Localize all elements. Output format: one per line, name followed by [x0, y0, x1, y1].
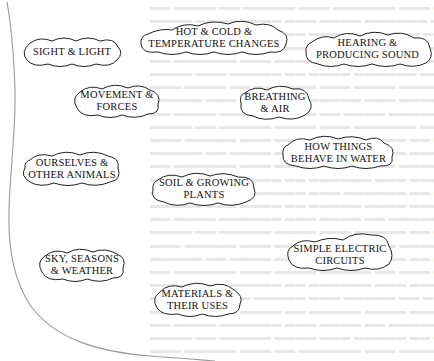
topic-label: SIMPLE ELECTRIC CIRCUITS: [293, 243, 386, 267]
topic-cloud-hot-cold: HOT & COLD & TEMPERATURE CHANGES: [138, 20, 290, 56]
topic-label: BREATHING & AIR: [244, 91, 305, 115]
topic-label: SKY, SEASONS & WEATHER: [45, 253, 119, 277]
topic-cloud-soil: SOIL & GROWING PLANTS: [150, 172, 258, 206]
topic-cloud-sky: SKY, SEASONS & WEATHER: [37, 248, 127, 282]
topic-cloud-ourselves: OURSELVES & OTHER ANIMALS: [22, 150, 122, 187]
topic-label: HOT & COLD & TEMPERATURE CHANGES: [148, 26, 279, 50]
topic-label: OURSELVES & OTHER ANIMALS: [28, 157, 115, 181]
topic-cloud-hearing: HEARING & PRODUCING SOUND: [302, 30, 433, 68]
topic-label: SOIL & GROWING PLANTS: [159, 177, 249, 201]
scanned-page: ▬▬ ▬▬▬▬ ▬▬ ▬▬▬▬▬ ▬▬▬ ▬▬▬▬▬▬ ▬▬▬ ▬▬▬▬ ▬▬ …: [0, 0, 434, 361]
topic-cloud-materials: MATERIALS & THEIR USES: [152, 282, 243, 318]
topic-label: MOVEMENT & FORCES: [80, 89, 153, 113]
topic-cloud-breathing: BREATHING & AIR: [237, 85, 313, 121]
topic-label: HEARING & PRODUCING SOUND: [316, 37, 419, 61]
topic-cloud-electric: SIMPLE ELECTRIC CIRCUITS: [285, 232, 395, 272]
topic-label: SIGHT & LIGHT: [33, 46, 111, 58]
topic-label: MATERIALS & THEIR USES: [162, 288, 234, 312]
topic-label: HOW THINGS BEHAVE IN WATER: [291, 141, 386, 165]
topic-cloud-water: HOW THINGS BEHAVE IN WATER: [280, 135, 397, 170]
topic-cloud-sight-light: SIGHT & LIGHT: [22, 37, 122, 67]
topic-cloud-movement: MOVEMENT & FORCES: [72, 84, 162, 118]
